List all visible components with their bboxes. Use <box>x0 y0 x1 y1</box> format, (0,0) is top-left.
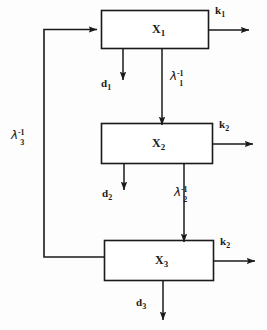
diagram-vector-layer <box>0 0 267 330</box>
transfer-label-lambda3: λ-13 <box>11 129 24 147</box>
loss-label-d2: d2 <box>102 188 112 202</box>
output-label-k2-from-x3: k2 <box>220 236 230 250</box>
loss-label-d3: d3 <box>136 297 146 311</box>
block-label-x2: X2 <box>152 136 165 152</box>
transfer-label-lambda2: λ-12 <box>174 186 187 204</box>
feedback-path-lambda3 <box>44 30 105 258</box>
block-diagram-canvas: X1 X2 X3 k1 k2 k2 d1 d2 d3 λ-11 λ-12 λ-1… <box>0 0 267 330</box>
output-label-k1: k1 <box>215 5 225 19</box>
transfer-label-lambda1: λ-11 <box>170 70 183 88</box>
output-label-k2-from-x2: k2 <box>219 119 229 133</box>
loss-label-d1: d1 <box>101 78 111 92</box>
block-label-x1: X1 <box>152 22 165 38</box>
block-label-x3: X3 <box>155 253 168 269</box>
